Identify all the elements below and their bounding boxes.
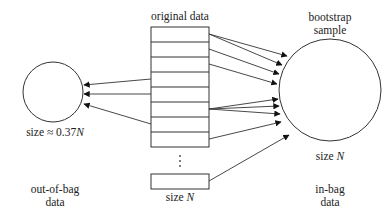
out-of-bag-arrows (84, 79, 151, 124)
bootstrap-sample-circle (279, 39, 381, 141)
bootstrap-size-text: size (316, 150, 334, 162)
inbag-caption-line2: data (300, 196, 360, 209)
original-size-var: N (187, 191, 195, 203)
bootstrap-sample-label: bootstrap sample (295, 11, 365, 37)
original-data-stack (151, 27, 209, 189)
bootstrap-label-line1: bootstrap (295, 11, 365, 24)
oob-size-text: size ≈ 0.37 (26, 126, 76, 138)
out-of-bag-size-label: size ≈ 0.37N (10, 126, 100, 139)
in-bag-arrows (209, 34, 289, 181)
ellipsis-dots (179, 155, 181, 167)
original-size-text: size (166, 191, 184, 203)
out-of-bag-caption: out-of-bag data (15, 183, 95, 209)
bootstrap-size-label: size N (300, 150, 360, 163)
oob-caption-line2: data (15, 196, 95, 209)
bootstrap-size-var: N (337, 150, 345, 162)
oob-caption-line1: out-of-bag (15, 183, 95, 196)
inbag-caption-line1: in-bag (300, 183, 360, 196)
bootstrap-label-line2: sample (295, 24, 365, 37)
original-data-label: original data (145, 10, 215, 23)
out-of-bag-circle (23, 62, 83, 122)
last-data-row (151, 174, 209, 189)
original-size-label: size N (150, 191, 210, 204)
in-bag-caption: in-bag data (300, 183, 360, 209)
oob-size-var: N (76, 126, 84, 138)
